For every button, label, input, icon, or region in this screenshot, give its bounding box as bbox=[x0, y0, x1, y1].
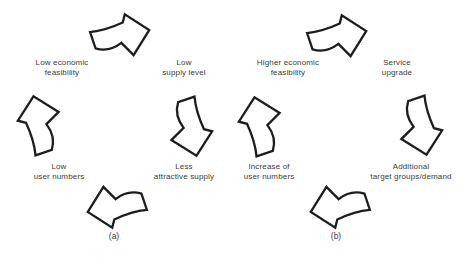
feedback-loops-diagram: Low economic feasibility Low supply leve… bbox=[0, 0, 473, 260]
label-line: Less bbox=[154, 162, 214, 172]
cycle-b-label-higher-economic-feasibility: Higher economic feasibility bbox=[257, 58, 319, 78]
cycle-a-left-curved-arrow-up-icon bbox=[17, 92, 70, 160]
label-line: attractive supply bbox=[154, 172, 214, 182]
cycle-b-label-additional-target-groups-demand: Additional target groups/demand bbox=[370, 162, 451, 182]
cycle-b-right-curved-arrow-down-icon bbox=[391, 92, 444, 160]
cycle-a-label-low-user-numbers: Low user numbers bbox=[34, 162, 85, 182]
curved-arrow-shape bbox=[307, 15, 366, 56]
curved-arrow-shape bbox=[88, 187, 147, 228]
label-line: upgrade bbox=[382, 68, 412, 78]
curved-arrow-shape bbox=[239, 97, 280, 156]
label-line: target groups/demand bbox=[370, 172, 451, 182]
label-line: Service bbox=[382, 58, 412, 68]
cycle-b-bottom-curved-arrow-left-icon bbox=[306, 176, 374, 229]
cycle-b-left-curved-arrow-up-icon bbox=[238, 93, 291, 161]
cycle-a-caption: (a) bbox=[109, 231, 119, 241]
cycle-a-right-curved-arrow-down-icon bbox=[161, 93, 214, 161]
label-line: user numbers bbox=[244, 172, 295, 182]
curved-arrow-shape bbox=[401, 96, 442, 155]
cycle-a-label-low-economic-feasibility: Low economic feasibility bbox=[36, 58, 89, 78]
cycle-a-label-low-supply-level: Low supply level bbox=[162, 58, 206, 78]
cycle-b-label-increase-of-user-numbers: Increase of user numbers bbox=[244, 162, 295, 182]
label-line: feasibility bbox=[36, 68, 89, 78]
label-line: Higher economic bbox=[257, 58, 319, 68]
cycle-a-label-less-attractive-supply: Less attractive supply bbox=[154, 162, 214, 182]
label-line: Low bbox=[162, 58, 206, 68]
label-line: user numbers bbox=[34, 172, 85, 182]
curved-arrow-shape bbox=[90, 14, 149, 55]
label-line: supply level bbox=[162, 68, 206, 78]
cycle-b-caption: (b) bbox=[331, 231, 341, 241]
cycle-b-label-service-upgrade: Service upgrade bbox=[382, 58, 412, 78]
curved-arrow-shape bbox=[171, 97, 212, 156]
curved-arrow-shape bbox=[311, 187, 370, 228]
label-line: feasibility bbox=[257, 68, 319, 78]
cycle-a-top-curved-arrow-right-icon bbox=[86, 13, 154, 66]
label-line: Additional bbox=[370, 162, 451, 172]
label-line: Low economic bbox=[36, 58, 89, 68]
label-line: Low bbox=[34, 162, 85, 172]
label-line: Increase of bbox=[244, 162, 295, 172]
cycle-a-bottom-curved-arrow-left-icon bbox=[83, 176, 151, 229]
curved-arrow-shape bbox=[18, 96, 59, 155]
